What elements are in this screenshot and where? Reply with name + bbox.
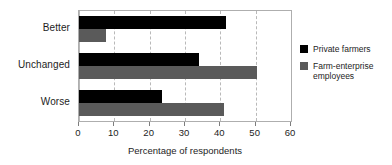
legend-item-private-farmers[interactable]: Private farmers <box>300 44 392 54</box>
tickmark-20 <box>149 122 150 126</box>
y-axis-category-labels: BetterUnchangedWorse <box>0 10 74 122</box>
x-tick-label-0: 0 <box>75 127 80 138</box>
bar-unchanged-private-farmers <box>79 53 199 66</box>
tickmark-0 <box>78 122 79 126</box>
x-tick-label-20: 20 <box>143 127 154 138</box>
legend-label: Private farmers <box>313 44 371 54</box>
bar-worse-farm-enterprise-employees <box>79 103 224 116</box>
x-axis-tick-labels: 0102030405060 <box>0 127 392 141</box>
bar-chart: BetterUnchangedWorse 0102030405060 Perce… <box>0 0 392 165</box>
x-tick-label-40: 40 <box>214 127 225 138</box>
bar-worse-private-farmers <box>79 90 162 103</box>
tickmark-30 <box>184 122 185 126</box>
legend-swatch-icon <box>300 45 308 53</box>
bar-unchanged-farm-enterprise-employees <box>79 66 257 79</box>
legend-item-farm-enterprise-employees[interactable]: Farm-enterprise employees <box>300 61 392 81</box>
x-tick-label-10: 10 <box>108 127 119 138</box>
bar-better-farm-enterprise-employees <box>79 29 106 42</box>
y-axis-label-worse: Worse <box>41 96 70 107</box>
legend-swatch-icon <box>300 62 308 70</box>
x-tick-label-30: 30 <box>179 127 190 138</box>
tickmark-50 <box>255 122 256 126</box>
x-axis-title: Percentage of respondents <box>78 145 292 157</box>
x-tick-label-50: 50 <box>249 127 260 138</box>
plot-area <box>78 10 292 122</box>
gridline-60 <box>291 11 292 121</box>
chart-legend: Private farmersFarm-enterprise employees <box>300 44 392 88</box>
y-axis-label-better: Better <box>43 22 70 33</box>
legend-label: Farm-enterprise employees <box>313 61 387 81</box>
x-tick-label-60: 60 <box>285 127 296 138</box>
tickmark-10 <box>113 122 114 126</box>
y-axis-label-unchanged: Unchanged <box>18 59 70 70</box>
tickmark-40 <box>219 122 220 126</box>
bar-better-private-farmers <box>79 16 226 29</box>
tickmark-60 <box>290 122 291 126</box>
